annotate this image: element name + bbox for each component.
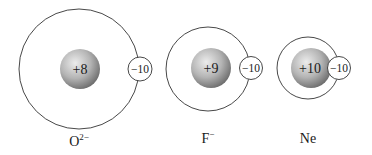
charge-superscript: − [209,129,214,139]
species-fminus: +9 −10 F− [166,27,263,146]
species-label: O2− [69,132,89,149]
species-label: Ne [300,131,316,146]
species-o2minus: +8 −10 O2− [19,9,152,149]
species-ne: +10 −10 Ne [277,37,351,146]
electron-charge: −10 [330,62,348,74]
electron-charge: −10 [131,63,149,75]
isoelectronic-diagram: +8 −10 O2− +9 −10 F− +10 −10 Ne [0,0,372,155]
electron-charge: −10 [242,62,260,74]
nuclear-charge: +10 [299,61,321,76]
charge-superscript: 2− [79,132,89,142]
nuclear-charge: +8 [73,62,88,77]
nuclear-charge: +9 [204,61,219,76]
species-label: F− [202,129,215,146]
